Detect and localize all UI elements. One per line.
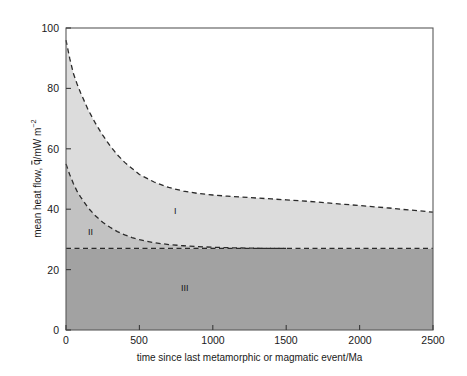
chart-plot-area [0, 0, 467, 376]
y-axis-title: mean heat flow, q/mW m−2 [29, 69, 42, 289]
region-label-two: II [88, 227, 93, 237]
x-tick-label-500: 500 [121, 334, 157, 346]
region-label-three: III [181, 283, 189, 293]
x-axis-title: time since last metamorphic or magmatic … [66, 352, 433, 363]
y-axis-title-exponent: −2 [29, 120, 38, 128]
heat-flow-chart-figure: 100 80 60 40 20 0 0 500 1000 1500 2000 2… [0, 0, 467, 376]
y-tick-label-100: 100 [26, 22, 59, 34]
x-tick-label-2500: 2500 [415, 334, 451, 346]
y-axis-title-prefix: mean heat flow, [32, 165, 43, 238]
y-axis-title-symbol: q [32, 159, 43, 165]
x-tick-label-0: 0 [48, 334, 84, 346]
x-tick-label-1500: 1500 [268, 334, 304, 346]
region-three-fill [66, 248, 433, 330]
y-axis-title-suffix: /mW m [32, 128, 43, 160]
region-label-one: I [174, 206, 177, 216]
x-tick-label-1000: 1000 [195, 334, 231, 346]
x-tick-label-2000: 2000 [342, 334, 378, 346]
